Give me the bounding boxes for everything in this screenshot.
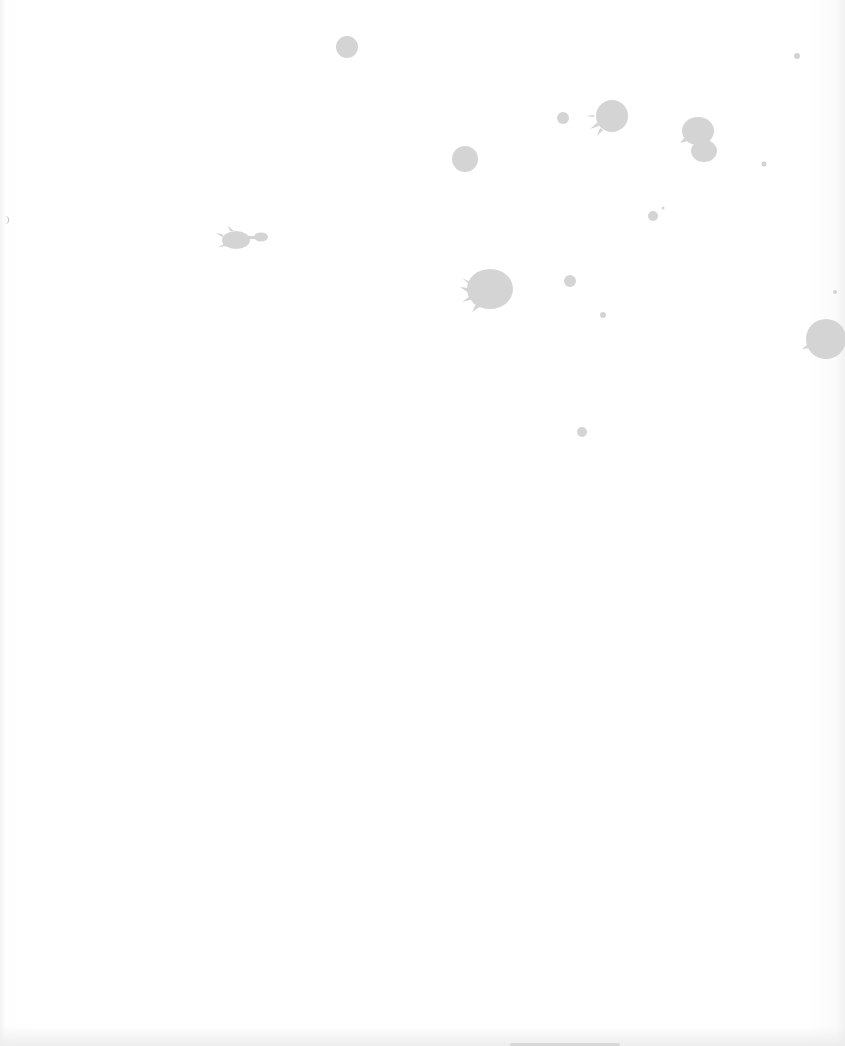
ink-splatter-layer bbox=[0, 0, 845, 1046]
splat-upper-mid bbox=[452, 146, 478, 172]
splat-tiny-center-right bbox=[600, 312, 606, 318]
splat-double-top-right bbox=[680, 117, 717, 162]
splat-small-mid-right bbox=[648, 211, 658, 221]
splat-dot-right bbox=[762, 162, 767, 167]
splat-edge-right bbox=[802, 319, 845, 359]
splat-dot-tiny-mid-right bbox=[662, 207, 665, 210]
splat-small-center-right bbox=[564, 275, 576, 287]
splat-top-center bbox=[336, 36, 358, 58]
splat-big-center bbox=[460, 269, 513, 312]
paper-sheet bbox=[0, 0, 845, 1046]
splat-dot-far-right bbox=[794, 53, 800, 59]
splat-left-elongated bbox=[216, 226, 268, 249]
splat-large-right-top bbox=[586, 100, 628, 136]
splat-small-left-of-large bbox=[557, 112, 569, 124]
page-bottom-shadow bbox=[0, 1026, 845, 1046]
splatter-group bbox=[216, 36, 845, 437]
splat-dot-edge-right bbox=[833, 290, 837, 294]
splat-lower-center bbox=[577, 427, 587, 437]
